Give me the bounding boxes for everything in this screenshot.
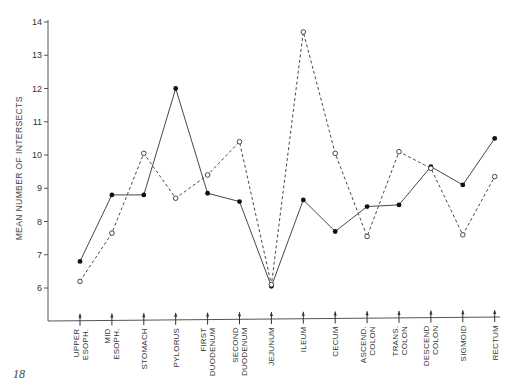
svg-text:ILEUM: ILEUM (299, 327, 308, 353)
x-category-label: CECUM (331, 326, 340, 356)
filled-point-marker (141, 193, 146, 198)
data-series (78, 30, 498, 289)
svg-text:ASCEND.: ASCEND. (359, 326, 368, 363)
svg-text:JEJUNUM: JEJUNUM (267, 327, 276, 366)
filled-point-marker (301, 197, 306, 202)
y-tick-label: 12 (32, 84, 42, 94)
svg-text:TRANS.: TRANS. (391, 326, 400, 357)
y-tick-label: 7 (37, 250, 42, 260)
open-point-marker (269, 282, 274, 287)
svg-text:COLON: COLON (400, 326, 409, 355)
filled-point-marker (110, 193, 115, 198)
y-tick-label: 6 (37, 283, 42, 293)
y-axis-title: MEAN NUMBER OF INTERSECTS (14, 96, 24, 240)
svg-text:STOMACH: STOMACH (140, 328, 149, 369)
x-category-label: PYLORUS (172, 328, 181, 368)
open-point-marker (142, 151, 147, 156)
open-circle-dashed-line-series (78, 30, 497, 287)
open-point-marker (78, 279, 83, 284)
line-chart: 67891011121314 MEAN NUMBER OF INTERSECTS… (0, 0, 521, 391)
open-point-marker (365, 234, 370, 239)
y-tick-label: 10 (32, 150, 42, 160)
filled-point-marker (78, 259, 83, 264)
svg-text:DESCEND: DESCEND (422, 326, 431, 367)
open-point-marker (397, 149, 402, 154)
page-number: 18 (13, 367, 25, 382)
svg-text:CECUM: CECUM (331, 326, 340, 356)
svg-text:ESOPH.: ESOPH. (81, 329, 90, 360)
x-category-label: MIDESOPH. (103, 328, 121, 359)
svg-text:RECTUM: RECTUM (491, 325, 500, 361)
svg-text:FIRST: FIRST (199, 328, 208, 352)
svg-text:SIGMOID: SIGMOID (459, 325, 468, 361)
open-point-marker (492, 174, 497, 179)
x-category-label: STOMACH (140, 328, 149, 369)
x-category-label: SIGMOID (459, 325, 468, 361)
svg-text:SECOND: SECOND (231, 327, 240, 362)
filled-point-marker (205, 191, 210, 196)
x-category-label: ILEUM (299, 327, 308, 353)
x-category-label: UPPERESOPH. (72, 329, 90, 360)
open-point-marker (429, 166, 434, 171)
x-category-label: RECTUM (491, 325, 500, 361)
y-tick-label: 14 (32, 17, 42, 27)
filled-point-marker (397, 202, 402, 207)
y-axis-ticks: 67891011121314 (32, 17, 48, 293)
svg-text:MID: MID (103, 328, 112, 343)
open-point-marker (237, 139, 242, 144)
open-point-marker (173, 196, 178, 201)
svg-text:COLON: COLON (368, 326, 377, 355)
y-tick-label: 13 (32, 50, 42, 60)
y-tick-label: 11 (33, 117, 42, 127)
x-category-label: JEJUNUM (267, 327, 276, 366)
filled-point-marker (333, 229, 338, 234)
filled-point-marker (492, 136, 497, 141)
x-category-label: SECONDDUODENUM (231, 327, 249, 376)
open-point-marker (110, 231, 115, 236)
x-category-label: TRANS.COLON (391, 326, 409, 357)
filled-point-marker (237, 199, 242, 204)
svg-text:PYLORUS: PYLORUS (172, 328, 181, 368)
open-point-marker (333, 151, 338, 156)
filled-point-marker (365, 204, 370, 209)
svg-text:ESOPH.: ESOPH. (112, 328, 121, 359)
y-axis-label: MEAN NUMBER OF INTERSECTS (14, 96, 24, 240)
open-point-marker (205, 173, 210, 178)
y-tick-label: 8 (37, 217, 42, 227)
filled-point-marker (173, 86, 178, 91)
x-category-label: FIRSTDUODENUM (199, 327, 217, 376)
svg-text:UPPER: UPPER (72, 329, 81, 358)
svg-text:COLON: COLON (431, 326, 440, 355)
x-category-label: ASCEND.COLON (359, 326, 377, 363)
y-tick-label: 9 (37, 183, 42, 193)
svg-text:DUODENUM: DUODENUM (208, 327, 217, 376)
x-category-label: DESCENDCOLON (422, 326, 440, 367)
svg-text:DUODENUM: DUODENUM (240, 327, 249, 376)
filled-point-marker (460, 183, 465, 188)
filled-circle-solid-line-series (78, 86, 498, 289)
open-point-marker (301, 30, 306, 35)
open-point-marker (461, 233, 466, 238)
